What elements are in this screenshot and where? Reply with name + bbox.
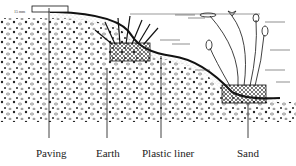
lily-basket xyxy=(222,85,266,103)
paving-slab xyxy=(32,6,68,12)
label-earth: Earth xyxy=(96,147,120,159)
shelf-basket xyxy=(110,43,150,61)
label-sand: Sand xyxy=(237,147,259,159)
label-plastic-liner: Plastic liner xyxy=(142,147,194,159)
earth-region xyxy=(0,18,296,122)
pond-cross-section-diagram xyxy=(0,0,296,166)
dimension-marker: 15 mm xyxy=(14,9,25,14)
label-paving: Paving xyxy=(36,147,67,159)
